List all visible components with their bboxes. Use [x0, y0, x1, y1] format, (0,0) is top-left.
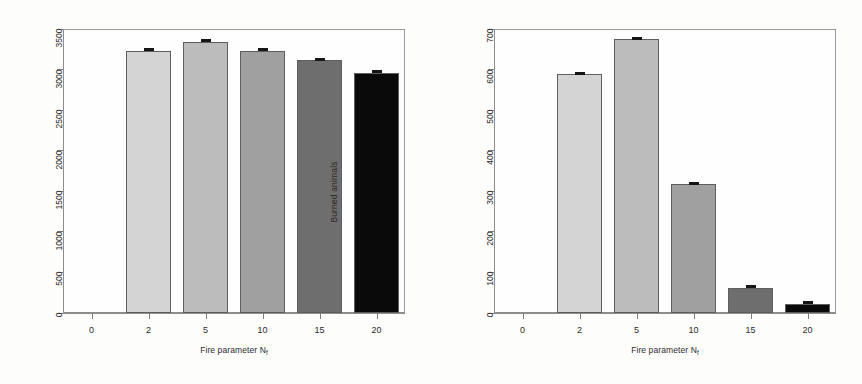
x-axis-tick-mark	[523, 313, 524, 319]
error-bar	[201, 39, 211, 42]
bar	[614, 39, 658, 313]
bar-series	[494, 29, 836, 313]
x-axis-tick-mark	[808, 313, 809, 319]
figure-two-panel-bar-chart: Burned trees 050010001500200025003000350…	[0, 0, 862, 384]
x-axis-tick-label: 15	[731, 325, 771, 335]
panel-burned-animals: Burned animals 0100200300400500600700 02…	[431, 0, 862, 384]
error-bar	[575, 72, 585, 75]
bar	[557, 74, 601, 313]
x-axis-line	[63, 313, 405, 314]
x-axis-tick-mark	[694, 313, 695, 319]
x-axis-tick-mark	[377, 313, 378, 319]
x-axis-tick-mark	[263, 313, 264, 319]
x-axis-tick-label: 15	[300, 325, 340, 335]
x-axis-tick-mark	[206, 313, 207, 319]
error-bar	[315, 58, 325, 61]
panel-burned-trees: Burned trees 050010001500200025003000350…	[0, 0, 431, 384]
error-bar	[803, 301, 813, 304]
bar	[728, 288, 772, 313]
x-axis-tick-mark	[751, 313, 752, 319]
error-bar	[689, 182, 699, 185]
x-axis-tick-label: 10	[243, 325, 283, 335]
bar	[785, 304, 829, 313]
x-axis-title: Fire parameter Nf	[494, 345, 836, 355]
y-axis-ticks: 0100200300400500600700	[431, 0, 494, 384]
error-bar	[746, 285, 756, 288]
x-axis-tick-label: 5	[186, 325, 226, 335]
x-axis-line	[494, 313, 836, 314]
x-axis-tick-label: 5	[617, 325, 657, 335]
x-axis-tick-label: 0	[503, 325, 543, 335]
bar	[240, 51, 284, 313]
x-axis-tick-label: 20	[357, 325, 397, 335]
x-axis-tick-label: 20	[788, 325, 828, 335]
x-axis-tick-mark	[637, 313, 638, 319]
error-bar	[632, 37, 642, 40]
bar	[354, 73, 398, 313]
bar	[126, 51, 170, 313]
x-axis-tick-label: 0	[72, 325, 112, 335]
x-axis-tick-mark	[92, 313, 93, 319]
error-bar	[144, 48, 154, 51]
x-axis-title: Fire parameter Nf	[63, 345, 405, 355]
x-axis-tick-label: 2	[129, 325, 169, 335]
y-axis-ticks: 0500100015002000250030003500	[0, 0, 63, 384]
x-axis-tick-mark	[149, 313, 150, 319]
bar-series	[63, 29, 405, 313]
x-axis-tick-mark	[320, 313, 321, 319]
x-axis-tick-label: 2	[560, 325, 600, 335]
bar	[671, 184, 715, 313]
x-axis-tick-label: 10	[674, 325, 714, 335]
error-bar	[258, 48, 268, 51]
x-axis-tick-mark	[580, 313, 581, 319]
error-bar	[372, 70, 382, 73]
bar	[183, 42, 227, 313]
